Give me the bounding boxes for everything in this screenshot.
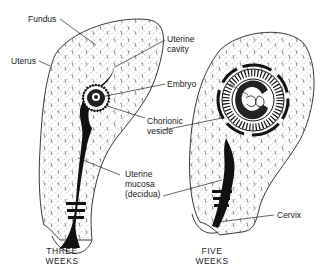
- uterus-three-weeks: [39, 19, 163, 253]
- label-chorionic-vesicle: Chorionic vesicle: [147, 116, 183, 136]
- caption-three-weeks: THREE WEEKS: [42, 246, 82, 266]
- label-uterine-mucosa: Uterine mucosa (decidua): [125, 169, 160, 199]
- label-uterus: Uterus: [11, 56, 36, 66]
- uterus-diagram: [0, 0, 332, 274]
- label-cervix: Cervix: [277, 210, 301, 220]
- label-fundus: Fundus: [28, 14, 56, 24]
- caption-five-weeks: FIVE WEEKS: [192, 246, 232, 266]
- label-uterine-cavity: Uterine cavity: [167, 34, 194, 54]
- uterus-five-weeks: [189, 32, 314, 235]
- label-embryo: Embryo: [167, 79, 196, 89]
